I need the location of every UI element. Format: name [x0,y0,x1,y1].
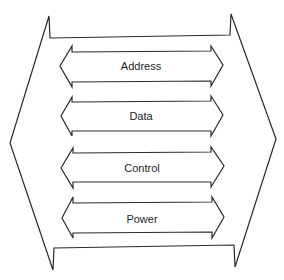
bus-label-power: Power [126,213,158,225]
bus-diagram: Address Data Control Power [0,0,284,280]
bus-label-data: Data [129,110,153,122]
bus-power: Power [62,197,224,238]
bus-label-control: Control [124,162,159,174]
bus-data: Data [61,96,223,136]
bus-control: Control [61,147,224,188]
bus-label-address: Address [121,60,162,72]
bus-address: Address [60,46,223,87]
bus-bundle-outline [10,14,276,270]
